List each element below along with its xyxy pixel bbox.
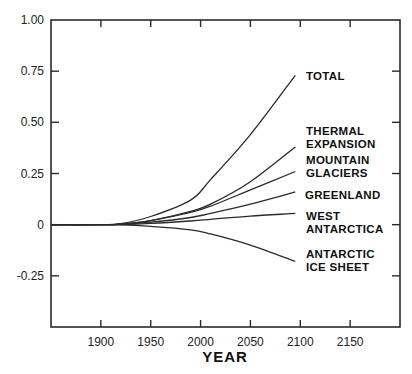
x-tick-label: 1900 <box>88 335 115 349</box>
series-label-thermal-expansion: THERMAL <box>306 125 364 137</box>
y-tick-label: 0.75 <box>21 64 45 78</box>
x-tick-label: 2050 <box>237 335 264 349</box>
x-tick-label: 2150 <box>337 335 364 349</box>
y-tick-label: 1.00 <box>21 13 45 27</box>
curve-west-antarctica <box>51 213 295 224</box>
y-tick-label: 0.25 <box>21 167 45 181</box>
series-label-antarctic-ice-sheet: ICE SHEET <box>306 261 369 273</box>
y-axis-tick-labels: 1.000.750.500.250-0.25 <box>17 13 45 283</box>
y-tick-label: -0.25 <box>17 269 45 283</box>
curve-mountain-glaciers <box>51 172 295 225</box>
x-tick-label: 2000 <box>187 335 214 349</box>
series-labels: TOTALTHERMALEXPANSIONMOUNTAINGLACIERSGRE… <box>305 70 384 273</box>
x-axis-tick-labels: 190019502000205021002150 <box>88 335 364 349</box>
series-label-thermal-expansion: EXPANSION <box>306 138 376 150</box>
series-label-greenland: GREENLAND <box>305 189 381 201</box>
series-label-antarctic-ice-sheet: ANTARCTIC <box>306 248 375 260</box>
series-label-west-antarctica: WEST <box>306 210 340 222</box>
series-label-mountain-glaciers: GLACIERS <box>306 167 368 179</box>
data-curves <box>51 75 295 261</box>
x-axis-title: YEAR <box>202 348 248 365</box>
x-tick-label: 1950 <box>137 335 164 349</box>
sea-level-chart: 1.000.750.500.250-0.25 19001950200020502… <box>0 0 412 374</box>
series-label-west-antarctica: ANTARCTICA <box>306 223 384 235</box>
y-tick-label: 0 <box>37 218 44 232</box>
curve-antarctic-ice-sheet <box>51 225 295 262</box>
series-label-total: TOTAL <box>306 70 345 82</box>
y-tick-label: 0.50 <box>21 115 45 129</box>
series-label-mountain-glaciers: MOUNTAIN <box>306 154 370 166</box>
x-tick-label: 2100 <box>287 335 314 349</box>
